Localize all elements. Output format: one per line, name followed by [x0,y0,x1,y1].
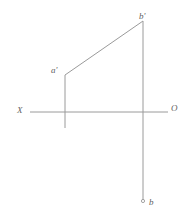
label-x-axis: X [17,106,23,115]
label-b: b [149,198,154,207]
projection-drawing [0,0,191,221]
frontal-projection-line-ab [65,21,143,75]
label-b-prime: b' [139,12,145,21]
label-a-prime: a' [51,66,57,75]
label-origin: O [171,104,178,113]
